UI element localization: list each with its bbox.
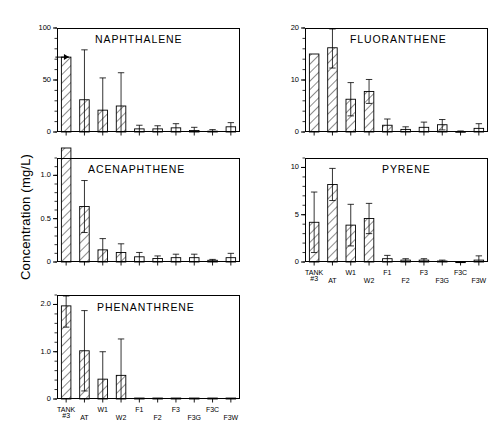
- xtick-line1: F1: [383, 269, 391, 276]
- ytick-naphthalene-100: 100: [23, 23, 51, 32]
- ytick-phenanthrene-0: 0: [23, 394, 51, 403]
- xtick-line1: F3C: [206, 406, 219, 413]
- xtick-label-6: F3: [158, 406, 194, 413]
- chart-title-fluoranthene: FLUORANTHENE: [350, 33, 447, 45]
- ytick-fluoranthene-10: 10: [271, 75, 299, 84]
- xtick-line1: F3: [420, 269, 428, 276]
- xtick-line1: W2: [116, 414, 127, 421]
- xtick-line1: F3W: [223, 414, 238, 421]
- xtick-label-7: F3G: [176, 414, 212, 421]
- ytick-pyrene-10: 10: [271, 162, 299, 171]
- xtick-line1: AT: [328, 277, 336, 284]
- xtick-label-6: F3: [406, 269, 442, 276]
- xtick-label-3: W2: [103, 414, 139, 421]
- chart-title-naphthalene: NAPHTHALENE: [95, 33, 183, 45]
- xtick-line1: W1: [98, 406, 109, 413]
- ytick-fluoranthene-20: 20: [271, 23, 299, 32]
- xtick-line1: F3G: [187, 414, 201, 421]
- ytick-pyrene-0: 0: [271, 257, 299, 266]
- ytick-phenanthrene-1: 1.0: [23, 347, 51, 356]
- xtick-label-1: AT: [314, 277, 350, 284]
- xtick-label-4: F1: [121, 406, 157, 413]
- xtick-label-7: F3G: [424, 277, 460, 284]
- xtick-label-2: W1: [333, 269, 369, 276]
- xtick-label-4: F1: [369, 269, 405, 276]
- xtick-label-1: AT: [66, 414, 102, 421]
- xtick-line1: F2: [154, 414, 162, 421]
- chart-title-acenaphthene: ACENAPHTHENE: [88, 163, 185, 175]
- ytick-naphthalene-50: 50: [23, 75, 51, 84]
- xtick-label-5: F2: [140, 414, 176, 421]
- xtick-label-9: F3W: [461, 277, 495, 284]
- y-axis-title: Concentration (mg/L): [18, 154, 33, 280]
- xtick-label-8: F3C: [195, 406, 231, 413]
- xtick-label-9: F3W: [213, 414, 249, 421]
- ytick-naphthalene-0: 0: [23, 127, 51, 136]
- xtick-line1: F3W: [471, 277, 486, 284]
- xtick-line1: AT: [80, 414, 88, 421]
- chart-title-pyrene: PYRENE: [382, 163, 431, 175]
- xtick-line1: F1: [135, 406, 143, 413]
- ytick-fluoranthene-0: 0: [271, 127, 299, 136]
- chart-title-phenanthrene: PHENANTHRENE: [97, 301, 195, 313]
- xtick-line1: F3C: [454, 269, 467, 276]
- xtick-label-8: F3C: [443, 269, 479, 276]
- xtick-label-5: F2: [388, 277, 424, 284]
- xtick-line1: W1: [346, 269, 357, 276]
- xtick-line1: W2: [364, 277, 375, 284]
- ytick-phenanthrene-2: 2.0: [23, 299, 51, 308]
- figure-panel-grid: NAPHTHALENE050100FLUORANTHENE01020ACENAP…: [0, 0, 495, 448]
- xtick-line1: F2: [402, 277, 410, 284]
- xtick-line1: F3: [172, 406, 180, 413]
- xtick-label-2: W1: [85, 406, 121, 413]
- ytick-pyrene-5: 5: [271, 210, 299, 219]
- xtick-label-3: W2: [351, 277, 387, 284]
- xtick-line1: F3G: [435, 277, 449, 284]
